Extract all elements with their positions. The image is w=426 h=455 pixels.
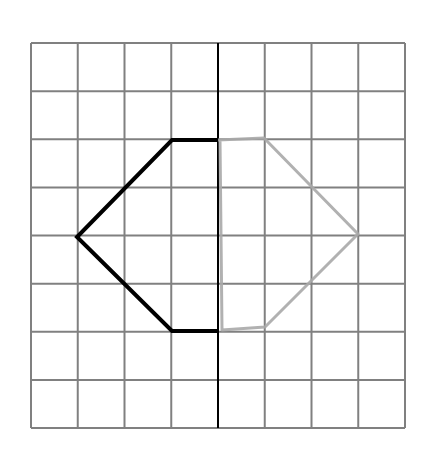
reflection-diagram	[0, 0, 426, 455]
grid-canvas	[0, 0, 426, 455]
sketched-reflection	[218, 138, 358, 330]
